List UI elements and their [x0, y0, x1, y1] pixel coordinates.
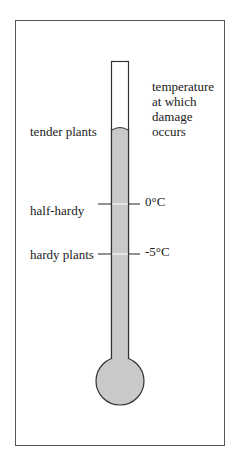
caption-line: occurs — [152, 124, 214, 139]
label-hardy-plants: hardy plants — [30, 247, 94, 262]
bulb-neck — [112, 350, 128, 365]
caption: temperature at which damage occurs — [152, 79, 214, 139]
temp-minus5c: -5°C — [145, 244, 170, 259]
caption-line: damage — [152, 109, 214, 124]
thermometer — [0, 0, 236, 456]
label-half-hardy: half-hardy — [30, 203, 84, 218]
temp-0c: 0°C — [145, 194, 165, 209]
label-tender-plants: tender plants — [30, 124, 97, 139]
caption-line: temperature — [152, 79, 214, 94]
caption-line: at which — [152, 94, 214, 109]
thermometer-liquid — [112, 128, 128, 363]
